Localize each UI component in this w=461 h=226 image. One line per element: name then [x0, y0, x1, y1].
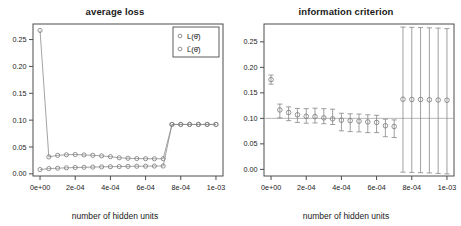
svg-text:0.25: 0.25 — [244, 37, 258, 46]
svg-text:4e-04: 4e-04 — [101, 183, 119, 192]
x-axis-label-average-loss: number of hidden units — [0, 211, 230, 221]
svg-text:0.00: 0.00 — [13, 169, 27, 178]
svg-text:0.15: 0.15 — [244, 88, 258, 97]
svg-text:0.20: 0.20 — [13, 62, 27, 71]
svg-text:2e-04: 2e-04 — [66, 183, 84, 192]
svg-text:1e-03: 1e-03 — [438, 183, 456, 192]
svg-text:2e-04: 2e-04 — [297, 183, 315, 192]
svg-text:0e+00: 0e+00 — [30, 183, 50, 192]
panel-information-criterion: information criterion 0.000.050.100.150.… — [231, 0, 461, 226]
x-axis-label-information-criterion: number of hidden units — [231, 211, 461, 221]
svg-text:0.00: 0.00 — [244, 165, 258, 174]
svg-text:0.05: 0.05 — [13, 143, 27, 152]
svg-text:1e-03: 1e-03 — [207, 183, 225, 192]
svg-text:4e-04: 4e-04 — [332, 183, 350, 192]
svg-text:L̄(θ̂): L̄(θ̂) — [187, 45, 201, 54]
svg-text:0.10: 0.10 — [244, 114, 258, 123]
svg-text:0.05: 0.05 — [244, 139, 258, 148]
plot-average-loss: 0.000.050.100.150.200.250e+002e-044e-046… — [0, 0, 230, 226]
svg-text:0.25: 0.25 — [13, 35, 27, 44]
svg-text:0.15: 0.15 — [13, 89, 27, 98]
plot-information-criterion: 0.000.050.100.150.200.250e+002e-044e-046… — [231, 0, 461, 226]
svg-text:6e-04: 6e-04 — [367, 183, 385, 192]
svg-text:0.10: 0.10 — [13, 116, 27, 125]
svg-text:0.20: 0.20 — [244, 63, 258, 72]
panel-average-loss: average loss 0.000.050.100.150.200.250e+… — [0, 0, 230, 226]
svg-text:8e-04: 8e-04 — [403, 183, 421, 192]
svg-text:0e+00: 0e+00 — [261, 183, 281, 192]
svg-text:L(θ̂): L(θ̂) — [187, 32, 201, 41]
svg-text:6e-04: 6e-04 — [136, 183, 154, 192]
figure-root: average loss 0.000.050.100.150.200.250e+… — [0, 0, 461, 226]
svg-text:8e-04: 8e-04 — [172, 183, 190, 192]
